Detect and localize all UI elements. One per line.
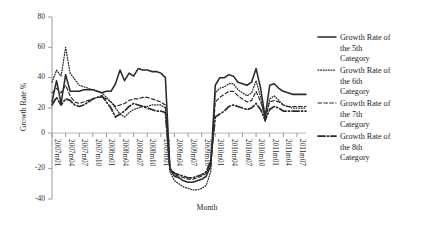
legend-label-5: Growth Rate of [340, 33, 391, 42]
y-axis-title: Growth Rate % [19, 82, 28, 131]
legend-label-7: Growth Rate of [340, 99, 391, 108]
y-tick-label: -40 [35, 194, 45, 203]
y-tick-label: 0 [41, 128, 45, 137]
chart-legend: Growth Rate ofthe 5thCategoryGrowth Rate… [318, 33, 391, 162]
y-tick-label: -20 [35, 163, 45, 172]
legend-label-5: Category [340, 54, 371, 63]
y-tick-label: 80 [38, 12, 46, 21]
legend-label-8: the 8th [340, 143, 362, 152]
y-tick-label: 60 [38, 42, 46, 51]
legend-label-5: the 5th [340, 44, 362, 53]
legend-label-6: Category [340, 87, 371, 96]
x-tick-label: 2007m01 [53, 139, 61, 167]
series-line-6 [52, 47, 306, 190]
x-tick-label: 2008m01 [107, 139, 115, 167]
chart-canvas: 80 60 40 20 0 -20 -40 Growth Rate % Mont… [0, 0, 424, 225]
x-tick-label: 2011m01 [271, 139, 279, 166]
x-tick-label: 2011m07 [298, 139, 306, 166]
x-tick-label: 2010m10 [257, 139, 265, 167]
x-axis-title: Month [197, 203, 218, 212]
x-tick-label: 2010m07 [244, 139, 252, 167]
x-tick-label: 2011m04 [284, 139, 292, 166]
x-tick-label: 2008m04 [121, 139, 129, 167]
x-tick-label: 2010m01 [216, 139, 224, 167]
legend-label-6: Growth Rate of [340, 66, 391, 75]
chart-figure: 80 60 40 20 0 -20 -40 Growth Rate % Mont… [0, 0, 424, 225]
x-tick-label: 2007m10 [94, 139, 102, 167]
legend-label-8: Category [340, 153, 371, 162]
x-tick-label: 2009m07 [189, 139, 197, 167]
y-tick-label: 40 [38, 72, 46, 81]
legend-label-6: the 6th [340, 77, 362, 86]
x-tick-label: 2008m10 [148, 139, 156, 167]
legend-label-8: Growth Rate of [340, 132, 391, 141]
x-tick-label: 2008m07 [135, 139, 143, 167]
series-group [52, 47, 306, 190]
x-tick-label: 2007m04 [67, 139, 75, 167]
y-tick-marks [48, 17, 52, 199]
x-tick-label: 2010m04 [230, 139, 238, 167]
x-tick-group: 2007m012007m042007m072007m102008m012008m… [52, 133, 306, 167]
x-tick-label: 2007m07 [80, 139, 88, 167]
legend-label-7: the 7th [340, 110, 362, 119]
y-tick-label: 20 [38, 103, 46, 112]
x-tick-label: 2009m04 [175, 139, 183, 167]
legend-label-7: Category [340, 120, 371, 129]
